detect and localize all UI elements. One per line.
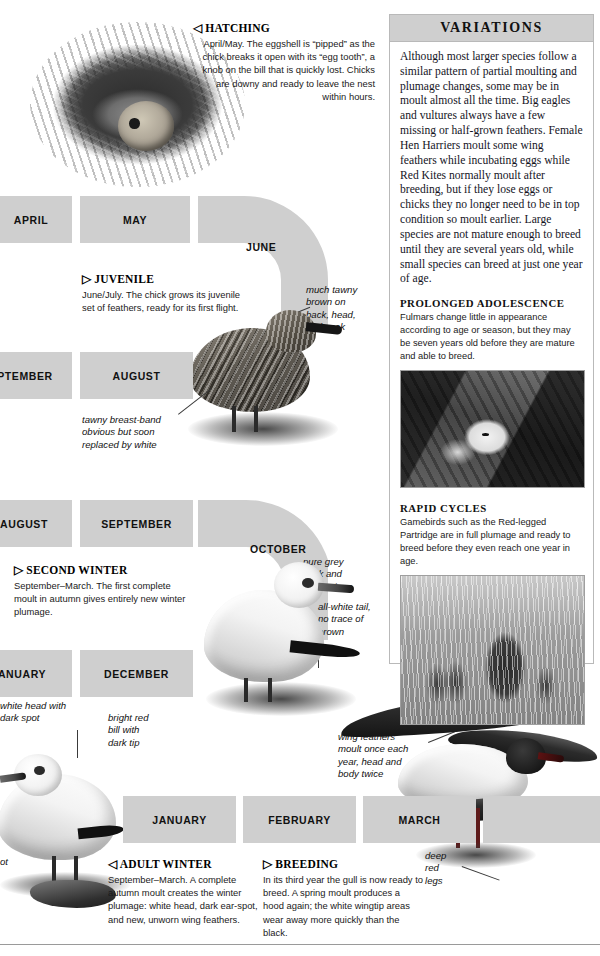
- variations-heading: VARIATIONS: [440, 20, 543, 36]
- breeding-title: BREEDING: [275, 858, 338, 870]
- month-february[interactable]: FEBRUARY: [243, 796, 356, 843]
- month-label: PTEMBER: [0, 370, 53, 382]
- adult-winter-marker: ◁: [108, 858, 117, 870]
- hatching-title: HATCHING: [205, 22, 270, 34]
- month-september-row2[interactable]: PTEMBER: [0, 352, 72, 399]
- month-label: APRIL: [14, 214, 49, 226]
- gull-leg: [232, 406, 236, 432]
- breeding-marker: ▷: [263, 858, 272, 870]
- section-heading: RAPID CYCLES: [400, 502, 583, 514]
- section-text: Fulmars change little in appearance acco…: [400, 311, 583, 363]
- month-label: MAY: [123, 214, 147, 226]
- month-trailing[interactable]: [483, 796, 600, 843]
- month-label: AUGUST: [0, 518, 48, 530]
- variations-header: VARIATIONS: [390, 15, 593, 42]
- annotation-deep-red-legs: deep red legs: [425, 850, 465, 887]
- month-label: SEPTEMBER: [101, 518, 172, 530]
- month-march[interactable]: MARCH: [363, 796, 476, 843]
- month-label: MARCH: [398, 814, 440, 826]
- breeding-body: In its third year the gull is now ready …: [263, 873, 423, 940]
- gull-head: [274, 562, 324, 608]
- gull-leg: [268, 678, 272, 702]
- month-december[interactable]: DECEMBER: [80, 650, 193, 697]
- section-heading: PROLONGED ADOLESCENCE: [400, 297, 583, 309]
- juvenile-title: JUVENILE: [94, 273, 154, 285]
- second-winter-title: SECOND WINTER: [26, 564, 127, 576]
- second-winter-body: September–March. The first complete moul…: [14, 579, 186, 619]
- section-text: Gamebirds such as the Red-legged Partrid…: [400, 516, 583, 568]
- caption-adult-winter: ◁ ADULT WINTER September–March. A comple…: [108, 858, 268, 926]
- month-april[interactable]: APRIL: [0, 196, 72, 243]
- adult-winter-body: September–March. A complete autumn moult…: [108, 873, 268, 926]
- month-label: JANUARY: [152, 814, 207, 826]
- month-label: DECEMBER: [104, 668, 169, 680]
- bottom-rule: [0, 944, 600, 945]
- gull-leg: [244, 678, 248, 702]
- fulmar-photo: [400, 370, 585, 488]
- adult-winter-title: ADULT WINTER: [120, 858, 212, 870]
- variations-panel: VARIATIONS Although most larger species …: [389, 14, 594, 664]
- month-label: AUGUST: [113, 370, 161, 382]
- ear-spot: [34, 766, 45, 775]
- month-label: FEBRUARY: [268, 814, 331, 826]
- month-august-row2[interactable]: AUGUST: [80, 352, 193, 399]
- variations-section-rapid-cycles: RAPID CYCLES Gamebirds such as the Red-l…: [400, 502, 583, 725]
- gull-leg: [254, 406, 258, 432]
- second-winter-marker: ▷: [14, 564, 23, 576]
- caption-second-winter: ▷ SECOND WINTER September–March. The fir…: [14, 564, 186, 619]
- month-january-row4[interactable]: ANUARY: [0, 650, 72, 697]
- caption-breeding: ▷ BREEDING In its third year the gull is…: [263, 858, 423, 939]
- hatching-marker: ◁: [193, 22, 202, 34]
- month-september-row3[interactable]: SEPTEMBER: [80, 500, 193, 547]
- annotation-tawny-breast-band: tawny breast-band obvious but soon repla…: [82, 414, 212, 451]
- rock-perch: [30, 880, 116, 908]
- variations-section-prolonged-adolescence: PROLONGED ADOLESCENCE Fulmars change lit…: [400, 297, 583, 488]
- variations-intro: Although most larger species follow a si…: [400, 50, 583, 287]
- ear-spot: [302, 578, 314, 588]
- caption-hatching: ◁ HATCHING April/May. The eggshell is “p…: [193, 22, 375, 103]
- juvenile-marker: ▷: [82, 273, 91, 285]
- month-may[interactable]: MAY: [80, 196, 190, 243]
- annotation-spot-partial: ot: [0, 856, 24, 868]
- partridge-photo: [400, 575, 585, 725]
- annotation-white-head: white head with dark spot: [0, 700, 110, 725]
- month-january-row5[interactable]: JANUARY: [123, 796, 236, 843]
- month-august-row3[interactable]: AUGUST: [0, 500, 72, 547]
- month-label: ANUARY: [0, 668, 46, 680]
- month-label: JUNE: [246, 241, 276, 253]
- gull-bill: [318, 583, 354, 593]
- hatching-body: April/May. The eggshell is “pipped” as t…: [193, 37, 375, 104]
- month-label: OCTOBER: [250, 543, 307, 555]
